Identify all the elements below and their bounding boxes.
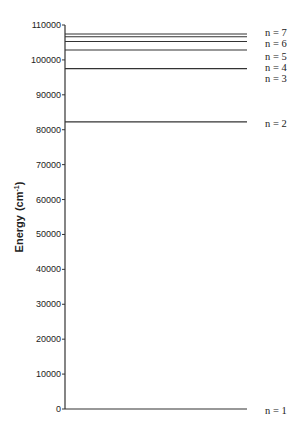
energy-level-label: n = 7 bbox=[265, 27, 287, 38]
y-tick-label: 110000 bbox=[32, 20, 61, 30]
y-axis-title: Energy(cm-1) bbox=[13, 181, 25, 252]
y-tick-label: 30000 bbox=[36, 299, 61, 309]
y-tick-label: 10000 bbox=[36, 369, 61, 379]
y-tick-label: 20000 bbox=[36, 334, 61, 344]
y-tick-label: 80000 bbox=[36, 125, 61, 135]
y-tick-label: 40000 bbox=[36, 264, 61, 274]
y-tick-label: 100000 bbox=[31, 55, 61, 65]
energy-level-label: n = 5 bbox=[265, 51, 287, 62]
y-tick-label: 70000 bbox=[36, 160, 61, 170]
energy-level-label: n = 4 bbox=[265, 62, 287, 73]
energy-level-label: n = 2 bbox=[265, 118, 287, 129]
energy-level-label: n = 1 bbox=[265, 405, 287, 416]
y-tick-label: 90000 bbox=[36, 90, 61, 100]
y-tick-label: 50000 bbox=[36, 229, 61, 239]
y-axis: 0100002000030000400005000060000700008000… bbox=[31, 20, 65, 414]
energy-level-label: n = 6 bbox=[265, 38, 287, 49]
energy-level-label: n = 3 bbox=[265, 73, 287, 84]
y-tick-label: 60000 bbox=[36, 195, 61, 205]
y-tick-label: 0 bbox=[56, 404, 61, 414]
energy-level-diagram: 0100002000030000400005000060000700008000… bbox=[0, 0, 304, 432]
energy-levels: n = 1n = 2n = 3n = 4n = 5n = 6n = 7 bbox=[65, 27, 287, 416]
